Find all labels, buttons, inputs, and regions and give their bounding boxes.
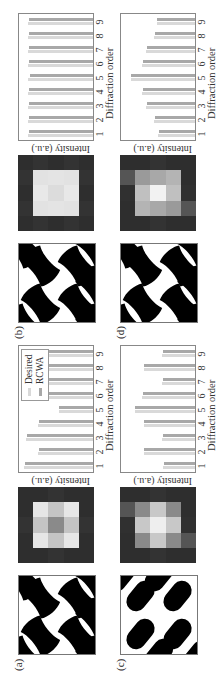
heatmap-cell [181, 216, 196, 231]
bar-group [121, 130, 195, 137]
bar-group [121, 434, 195, 441]
heatmap-cell [79, 487, 94, 502]
bar-desired [162, 382, 195, 385]
heatmap-cell [135, 155, 150, 170]
bar-desired [28, 120, 93, 123]
intensity-heatmap [120, 155, 196, 231]
bar-desired [146, 50, 195, 53]
heatmap-cell [135, 170, 150, 185]
heatmap-cell [166, 216, 181, 231]
bar-group [19, 32, 93, 39]
bar-rcwa [144, 448, 195, 451]
heatmap-cell [166, 517, 181, 532]
heatmap-cell [120, 487, 135, 502]
heatmap-cell [150, 201, 165, 216]
x-axis-label: Diffraction order [206, 380, 217, 451]
heatmap-cell [135, 216, 150, 231]
bar-group [121, 420, 195, 427]
heatmap-cell [135, 201, 150, 216]
heatmap-cell [18, 185, 33, 200]
bar-rcwa [163, 378, 195, 381]
heatmap-cell [18, 548, 33, 563]
bar-group [19, 60, 93, 67]
bar-rcwa [163, 350, 195, 353]
heatmap-cell [18, 170, 33, 185]
bar-group [19, 420, 93, 427]
bar-group [19, 102, 93, 109]
heatmap-cell [181, 201, 196, 216]
metasurface-pattern [18, 575, 96, 655]
heatmap-cell [79, 216, 94, 231]
heatmap-cell [135, 502, 150, 517]
heatmap-cell [48, 517, 63, 532]
heatmap-cell [64, 502, 79, 517]
bar-rcwa [144, 364, 195, 367]
bar-group [121, 350, 195, 357]
bar-group [19, 88, 93, 95]
x-tick-label: 1 [94, 129, 105, 139]
heatmap-cell [120, 155, 135, 170]
bar-desired [144, 424, 195, 427]
bar-group [121, 364, 195, 371]
bar-desired [154, 36, 195, 39]
bar-desired [157, 22, 195, 25]
bar-group [121, 88, 195, 95]
heatmap-cell [48, 170, 63, 185]
heatmap-cell [79, 548, 94, 563]
bar-desired [28, 36, 93, 39]
bar-rcwa [147, 46, 195, 49]
heatmap-cell [166, 185, 181, 200]
bar-group [121, 462, 195, 469]
heatmap-cell [48, 201, 63, 216]
bar-desired [142, 396, 195, 399]
heatmap-cell [181, 548, 196, 563]
heatmap-cell [48, 502, 63, 517]
heatmap-cell [120, 502, 135, 517]
heatmap-cell [33, 548, 48, 563]
bar-desired [28, 78, 93, 81]
heatmap-cell [18, 155, 33, 170]
heatmap-cell [48, 216, 63, 231]
bar-group [121, 406, 195, 413]
heatmap-cell [18, 533, 33, 548]
bar-desired [28, 50, 93, 53]
bar-desired [154, 120, 195, 123]
bar-rcwa [131, 74, 195, 77]
heatmap-cell [33, 487, 48, 502]
x-axis-label: Diffraction order [104, 48, 115, 119]
y-axis-label: Intensity (a.u.) [31, 144, 90, 155]
heatmap-cell [64, 216, 79, 231]
heatmap-cell [150, 216, 165, 231]
bar-group [19, 448, 93, 455]
heatmap-cell [64, 185, 79, 200]
bar-rcwa [39, 420, 93, 423]
heatmap-cell [79, 502, 94, 517]
bar-group [19, 74, 93, 81]
x-axis-label: Diffraction order [104, 380, 115, 451]
heatmap-cell [135, 533, 150, 548]
heatmap-cell [181, 502, 196, 517]
legend-text: RCWA [35, 357, 46, 384]
heatmap-cell [181, 170, 196, 185]
x-tick-label: 8 [94, 363, 105, 373]
heatmap-cell [120, 201, 135, 216]
heatmap-cell [166, 502, 181, 517]
heatmap-cell [48, 548, 63, 563]
heatmap-cell [150, 533, 165, 548]
bar-rcwa [143, 88, 195, 91]
bar-group [19, 116, 93, 123]
x-tick-label: 8 [94, 31, 105, 41]
x-tick-label: 9 [94, 17, 105, 27]
y-axis-label: Intensity (a.u.) [133, 476, 192, 487]
bar-desired [142, 64, 195, 67]
intensity-heatmap [120, 487, 196, 563]
heatmap-cell [120, 533, 135, 548]
bar-desired [28, 22, 93, 25]
bar-rcwa [147, 102, 195, 105]
x-tick-label: 1 [196, 461, 207, 471]
bar-rcwa [27, 434, 94, 437]
x-tick-label: 9 [196, 17, 207, 27]
bar-desired [135, 410, 195, 413]
heatmap-cell [150, 517, 165, 532]
bar-desired [28, 64, 93, 67]
